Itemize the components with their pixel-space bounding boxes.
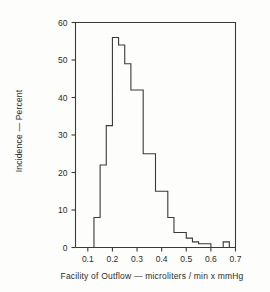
y-tick-label: 40	[58, 93, 68, 103]
y-tick-label: 30	[58, 130, 68, 140]
histogram-series	[94, 38, 236, 248]
x-axis-tick-labels: 0.10.20.30.40.50.60.7	[82, 254, 242, 264]
x-tick-label: 0.3	[131, 254, 143, 264]
x-axis-ticks	[88, 248, 236, 252]
x-tick-label: 0.4	[156, 254, 168, 264]
y-tick-label: 60	[58, 18, 68, 28]
x-tick-label: 0.6	[205, 254, 217, 264]
chart-canvas: 0102030405060 0.10.20.30.40.50.60.7 Faci…	[0, 0, 270, 292]
histogram-figure: 0102030405060 0.10.20.30.40.50.60.7 Faci…	[0, 0, 270, 292]
y-tick-label: 10	[58, 205, 68, 215]
x-tick-label: 0.7	[230, 254, 242, 264]
y-axis-tick-labels: 0102030405060	[58, 18, 68, 253]
y-tick-label: 20	[58, 168, 68, 178]
y-tick-label: 0	[63, 243, 68, 253]
plot-frame	[76, 23, 236, 248]
x-tick-label: 0.5	[180, 254, 192, 264]
x-tick-label: 0.1	[82, 254, 94, 264]
y-axis-ticks	[72, 23, 76, 248]
x-tick-label: 0.2	[107, 254, 119, 264]
y-tick-label: 50	[58, 55, 68, 65]
y-axis-title: Incidence — Percent	[14, 89, 24, 172]
x-axis-title: Facility of Outflow — microliters / min …	[60, 271, 243, 281]
